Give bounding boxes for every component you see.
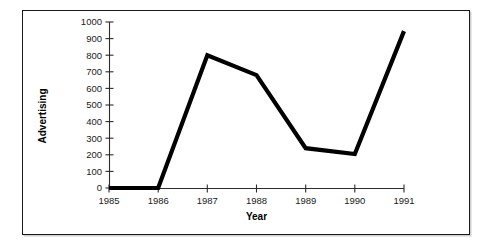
y-tick-label: 800 [86,50,102,61]
x-tick-label: 1991 [393,195,414,206]
x-tick-label: 1990 [344,195,365,206]
y-tick-label: 500 [86,99,102,110]
y-tick-label: 600 [86,83,102,94]
y-tick-label: 400 [86,116,102,127]
y-axis-title: Advertising [37,88,48,143]
x-tick-label: 1985 [98,195,119,206]
y-tick-label: 100 [86,166,102,177]
x-tick-label: 1988 [246,195,267,206]
y-tick-label: 200 [86,149,102,160]
y-tick-label: 700 [86,66,102,77]
x-tick-label: 1986 [148,195,169,206]
line-chart: Advertising 1000 900 800 700 600 500 400… [0,0,491,251]
x-axis-tick-labels: 1985 1986 1987 1988 1989 1990 1991 [98,195,414,206]
x-tick-label: 1989 [295,195,316,206]
x-tick-label: 1987 [197,195,218,206]
y-tick-label: 1000 [81,16,102,27]
y-axis-title-text: Advertising [37,88,48,143]
y-tick-label: 900 [86,33,102,44]
y-tick-label: 0 [97,182,102,193]
y-axis-tick-labels: 1000 900 800 700 600 500 400 300 200 100… [81,16,102,193]
x-axis-title: Year [246,211,267,222]
data-series-advertising [109,31,404,188]
y-tick-label: 300 [86,133,102,144]
